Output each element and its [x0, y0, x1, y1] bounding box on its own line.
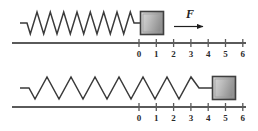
axis-top-label-4: 4 — [206, 49, 211, 59]
block-bottom — [213, 77, 236, 100]
axis-top-label-5: 5 — [223, 49, 228, 59]
force-label-F: F — [185, 7, 194, 21]
axis-top-label-1: 1 — [154, 49, 159, 59]
block-top — [141, 12, 164, 35]
spring-block-figure: F 0 1 2 3 4 5 6 — [0, 0, 258, 131]
stretched-spring-panel: 0 1 2 3 4 5 6 — [12, 77, 246, 124]
force-arrow-group: F — [174, 7, 203, 27]
axis-top-label-3: 3 — [189, 49, 194, 59]
axis-bottom-label-4: 4 — [206, 113, 211, 123]
axis-top-label-6: 6 — [241, 49, 246, 59]
axis-top-label-0: 0 — [137, 49, 142, 59]
axis-bottom-labels: 0 1 2 3 4 5 6 — [137, 113, 246, 123]
coil-spring-compressed — [20, 12, 140, 34]
axis-top-label-2: 2 — [171, 49, 176, 59]
axis-bottom-label-2: 2 — [171, 113, 176, 123]
axis-bottom-label-3: 3 — [189, 113, 194, 123]
axis-bottom-label-6: 6 — [241, 113, 246, 123]
figure-canvas: F 0 1 2 3 4 5 6 — [0, 0, 258, 131]
axis-bottom-label-1: 1 — [154, 113, 159, 123]
axis-bottom-label-5: 5 — [223, 113, 228, 123]
relaxed-spring-panel: F 0 1 2 3 4 5 6 — [12, 7, 246, 59]
axis-bottom-label-0: 0 — [137, 113, 142, 123]
axis-top-labels: 0 1 2 3 4 5 6 — [137, 49, 246, 59]
coil-spring-stretched — [20, 77, 212, 99]
